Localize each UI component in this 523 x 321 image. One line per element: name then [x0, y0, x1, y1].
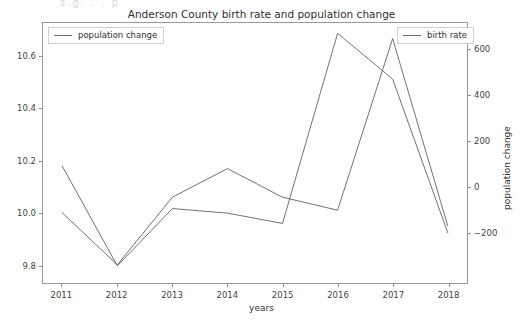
- x-tick-mark-6: [393, 284, 394, 287]
- legend-swatch-birth-rate: [403, 35, 421, 36]
- x-tick-mark-4: [283, 284, 284, 287]
- y-tick-mark-left-4: [39, 56, 42, 57]
- x-tick-mark-5: [338, 284, 339, 287]
- x-tick-2: 2013: [152, 290, 192, 300]
- y-tick-left-3: 10.4: [2, 103, 36, 113]
- x-tick-1: 2012: [97, 290, 137, 300]
- y-tick-right-2: 200: [474, 136, 514, 146]
- plot-area: [42, 22, 468, 284]
- x-tick-5: 2016: [318, 290, 358, 300]
- x-tick-3: 2014: [207, 290, 247, 300]
- y-tick-mark-left-0: [39, 266, 42, 267]
- cropped-header-text: s.g. . . p: [60, 0, 120, 8]
- y-tick-right-0: −200: [474, 228, 514, 238]
- legend-swatch-population-change: [54, 35, 72, 36]
- y-tick-left-2: 10.2: [2, 156, 36, 166]
- legend-birth-rate: birth rate: [397, 27, 474, 44]
- x-tick-7: 2018: [429, 290, 469, 300]
- series-line-population-change: [62, 33, 447, 266]
- y-tick-mark-left-1: [39, 213, 42, 214]
- y-tick-left-4: 10.6: [2, 51, 36, 61]
- y-tick-mark-right-2: [468, 141, 471, 142]
- y-tick-left-1: 10.0: [2, 208, 36, 218]
- x-tick-mark-2: [172, 284, 173, 287]
- series-lines: [43, 23, 467, 283]
- legend-label-population-change: population change: [78, 31, 157, 40]
- legend-label-birth-rate: birth rate: [427, 31, 467, 40]
- y-tick-left-0: 9.8: [2, 261, 36, 271]
- y-tick-right-3: 400: [474, 90, 514, 100]
- y-tick-right-1: 0: [474, 182, 514, 192]
- chart-title: Anderson County birth rate and populatio…: [0, 8, 523, 20]
- y-tick-mark-right-1: [468, 187, 471, 188]
- series-line-birth-rate: [62, 39, 447, 265]
- x-tick-mark-3: [227, 284, 228, 287]
- y-tick-mark-right-3: [468, 95, 471, 96]
- y-tick-mark-left-2: [39, 161, 42, 162]
- x-tick-0: 2011: [41, 290, 81, 300]
- x-tick-4: 2015: [263, 290, 303, 300]
- x-tick-mark-7: [449, 284, 450, 287]
- y-tick-mark-right-0: [468, 233, 471, 234]
- legend-population-change: population change: [48, 27, 164, 44]
- y-tick-mark-right-4: [468, 49, 471, 50]
- x-tick-mark-1: [117, 284, 118, 287]
- x-axis-label: years: [0, 303, 523, 313]
- x-tick-mark-0: [61, 284, 62, 287]
- y-tick-right-4: 600: [474, 44, 514, 54]
- y-tick-mark-left-3: [39, 108, 42, 109]
- x-tick-6: 2017: [373, 290, 413, 300]
- chart-figure: s.g. . . p Anderson County birth rate an…: [0, 0, 523, 321]
